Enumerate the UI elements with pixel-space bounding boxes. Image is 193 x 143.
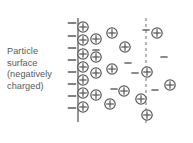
positive-ion [78, 22, 88, 32]
positive-ion [91, 34, 101, 44]
positive-ion [78, 88, 88, 98]
positive-ion [142, 67, 152, 77]
positive-ion [165, 80, 175, 90]
positive-ion [107, 64, 117, 74]
positive-ion [91, 68, 101, 78]
positive-ion [91, 90, 101, 100]
positive-ion [91, 52, 101, 62]
positive-ion [105, 99, 115, 109]
positive-ion [142, 110, 152, 120]
positive-ion [78, 102, 88, 112]
surface-negative-charge-group [68, 23, 76, 108]
positive-ion [120, 42, 130, 52]
positive-ion [119, 86, 129, 96]
positive-ion [78, 62, 88, 72]
diagram-figure: Particle surface (negatively charged) [0, 0, 193, 143]
positive-ion [78, 49, 88, 59]
negative-ion-group [92, 30, 167, 90]
positive-ion [107, 28, 117, 38]
positive-ion [78, 75, 88, 85]
positive-ion [78, 35, 88, 45]
double-layer-schematic [0, 0, 193, 143]
positive-ion [136, 94, 146, 104]
positive-ion-group [78, 22, 175, 120]
positive-ion [152, 28, 162, 38]
